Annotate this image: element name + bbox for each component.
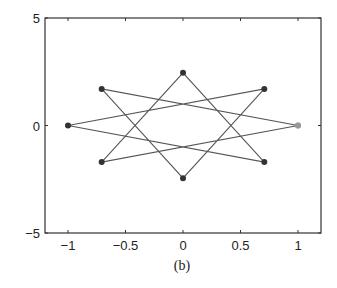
figure-caption: (b) [174,258,191,274]
data-markers [65,70,301,181]
x-tick-label: −1 [61,238,76,253]
data-point [261,86,267,92]
data-point [65,123,71,129]
data-point [99,159,105,165]
chart: −1−0.500.51−505 (b) [0,0,337,288]
y-tick-label: −5 [25,226,40,241]
data-point [180,175,186,181]
x-tick-label: 1 [294,238,301,253]
data-point [99,86,105,92]
y-tick-label: 0 [33,119,40,134]
axes-box [45,18,321,233]
x-tick-label: 0.5 [231,238,249,253]
data-point [180,70,186,76]
x-tick-label: 0 [179,238,186,253]
y-tick-label: 5 [33,11,40,26]
data-point [261,159,267,165]
data-point [295,123,301,129]
plot-frame [45,18,321,233]
axis-ticks: −1−0.500.51−505 [25,11,321,253]
x-tick-label: −0.5 [113,238,139,253]
